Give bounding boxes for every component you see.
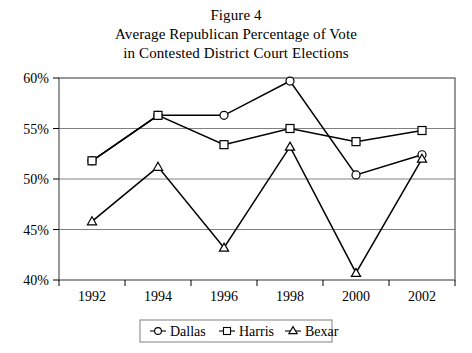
- line-chart: 60% 55% 50% 45% 40% 1992 1994 1996 1998 …: [0, 0, 472, 353]
- figure-container: Figure 4 Average Republican Percentage o…: [0, 0, 472, 353]
- y-axis-label-60: 60%: [23, 71, 49, 86]
- x-axis-label-1996: 1996: [210, 289, 238, 304]
- legend-box: [140, 320, 332, 342]
- data-point-square: [286, 125, 294, 133]
- data-point-square: [220, 141, 228, 149]
- legend-label-harris: Harris: [239, 324, 274, 339]
- y-axis-label-45: 45%: [23, 223, 49, 238]
- data-point-square: [418, 127, 426, 135]
- x-axis-label-1998: 1998: [276, 289, 304, 304]
- data-point-square: [154, 111, 162, 119]
- data-point-square: [352, 138, 360, 146]
- x-axis-label-2000: 2000: [342, 289, 370, 304]
- x-axis-label-2002: 2002: [408, 289, 436, 304]
- legend-label-dallas: Dallas: [170, 324, 206, 339]
- x-axis-labels: 1992 1994 1996 1998 2000 2002: [78, 289, 436, 304]
- y-tick-marks: [53, 78, 59, 280]
- data-point-circle: [352, 171, 360, 179]
- y-axis-label-55: 55%: [23, 122, 49, 137]
- x-tick-marks: [59, 280, 455, 286]
- y-axis-label-40: 40%: [23, 273, 49, 288]
- data-point-circle: [220, 111, 228, 119]
- y-axis-label-50: 50%: [23, 172, 49, 187]
- legend-label-bexar: Bexar: [305, 324, 339, 339]
- data-point-circle: [286, 77, 294, 85]
- circle-marker-icon: [155, 328, 162, 335]
- chart-legend: Dallas Harris Bexar: [140, 320, 339, 342]
- square-marker-icon: [224, 328, 231, 335]
- x-axis-label-1992: 1992: [78, 289, 106, 304]
- y-axis-labels: 60% 55% 50% 45% 40%: [23, 71, 49, 288]
- data-point-square: [88, 157, 96, 165]
- x-axis-label-1994: 1994: [144, 289, 172, 304]
